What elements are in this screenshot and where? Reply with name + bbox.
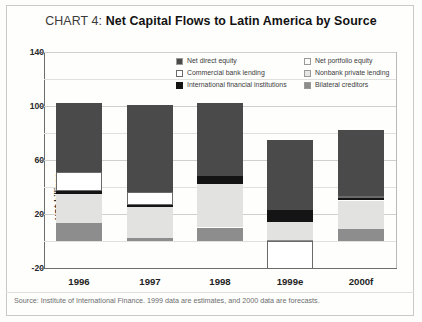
bar-segment [338, 130, 384, 196]
bar-segment [197, 184, 243, 227]
bar-segment [267, 241, 313, 269]
legend-swatch-icon [304, 70, 311, 77]
legend-label: International financial institutions [187, 82, 287, 89]
bar-segment [56, 103, 102, 172]
y-tick-mark [39, 106, 44, 107]
legend-column-right: Net portfolio equityNonbank private lend… [304, 56, 400, 92]
y-tick-mark [39, 52, 44, 53]
bar-segment [127, 192, 173, 204]
bar-segment [127, 205, 173, 208]
y-tick-mark [39, 214, 44, 215]
bar-group [127, 52, 173, 268]
bar-segment [127, 105, 173, 193]
legend-swatch-icon [176, 70, 183, 77]
source-divider [6, 292, 414, 293]
x-tick-label: 1998 [182, 276, 258, 287]
title-main: Net Capital Flows to Latin America by So… [106, 14, 377, 28]
x-axis-line [44, 268, 397, 269]
legend-label: Net portfolio equity [315, 58, 372, 65]
legend-label: Nonbank private lending [315, 70, 389, 77]
y-tick-label: 140 [4, 48, 44, 57]
x-tick-label: 1999e [252, 276, 328, 287]
y-tick-mark [39, 160, 44, 161]
chart-page: CHART 4: Net Capital Flows to Latin Amer… [0, 0, 422, 322]
bar-segment [267, 210, 313, 222]
legend-label: Commercial bank lending [187, 70, 265, 77]
bar-segment [197, 176, 243, 184]
y-tick-mark [39, 268, 44, 269]
bar-segment [56, 172, 102, 191]
source-note: Source: Institute of International Finan… [14, 296, 320, 305]
bar-segment [127, 207, 173, 238]
y-tick-label: 20 [4, 210, 44, 219]
x-tick-label: 1996 [41, 276, 117, 287]
bar-segment [197, 228, 243, 242]
bar-group [56, 52, 102, 268]
title-prefix: CHART 4: [45, 14, 105, 28]
bar-segment [267, 222, 313, 240]
x-tick-label: 1997 [112, 276, 188, 287]
legend-item: Net direct equity [176, 56, 300, 67]
x-tick-label: 2000f [323, 276, 399, 287]
bar-segment [56, 191, 102, 194]
legend-swatch-icon [304, 82, 311, 89]
legend-swatch-icon [176, 82, 183, 89]
legend-item: Bilateral creditors [304, 80, 400, 91]
page-title: CHART 4: Net Capital Flows to Latin Amer… [0, 14, 422, 28]
bar-segment [338, 229, 384, 241]
legend-column-left: Net direct equityCommercial bank lending… [176, 56, 300, 92]
bar-segment [338, 201, 384, 229]
legend-item: Net portfolio equity [304, 56, 400, 67]
bar-segment [56, 194, 102, 224]
y-tick-label: 60 [4, 156, 44, 165]
legend-item: Commercial bank lending [176, 68, 300, 79]
bar-segment [127, 238, 173, 241]
bar-segment [56, 223, 102, 241]
y-tick-label: -20 [4, 264, 44, 273]
legend-swatch-icon [304, 58, 311, 65]
legend-label: Net direct equity [187, 58, 237, 65]
bar-segment [267, 140, 313, 210]
legend-label: Bilateral creditors [315, 82, 368, 89]
legend-item: International financial institutions [176, 80, 300, 91]
legend-item: Nonbank private lending [304, 68, 400, 79]
legend-swatch-icon [176, 58, 183, 65]
bar-segment [197, 103, 243, 176]
y-tick-label: 100 [4, 102, 44, 111]
bar-segment [338, 196, 384, 198]
